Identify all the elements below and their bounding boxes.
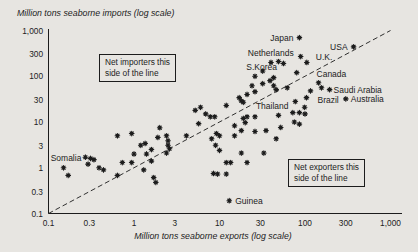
data-point: [129, 131, 134, 136]
data-point: [232, 133, 237, 138]
net-exporters-line1: Net exporters this: [294, 162, 359, 173]
country-point-guinea: [227, 198, 232, 203]
country-point-thailand: [276, 113, 281, 118]
data-point: [245, 92, 250, 97]
data-point: [245, 114, 250, 119]
data-point: [274, 136, 279, 141]
x-tick-label: 100: [298, 218, 312, 228]
data-point: [303, 112, 308, 117]
country-label-thailand: Thailand: [256, 101, 289, 111]
data-point: [260, 81, 265, 86]
data-point: [129, 160, 134, 165]
data-point: [193, 108, 198, 113]
country-point-brazil: [319, 85, 324, 90]
y-tick-label: 3: [38, 141, 43, 151]
data-point: [151, 175, 156, 180]
data-point: [196, 121, 201, 126]
data-point: [156, 135, 161, 140]
data-point: [245, 160, 250, 165]
data-point: [154, 180, 159, 185]
y-tick-label: 0.1: [31, 209, 43, 219]
data-point: [86, 162, 91, 167]
data-point: [239, 151, 244, 156]
data-point: [120, 160, 125, 165]
data-point: [144, 152, 149, 157]
x-tick-label: 1: [132, 218, 137, 228]
data-point: [274, 87, 279, 92]
data-point: [224, 103, 229, 108]
data-point: [297, 122, 302, 127]
country-label-canada: Canada: [317, 69, 347, 79]
country-label-brazil: Brazil: [318, 95, 339, 105]
x-tick-label: 10: [215, 218, 225, 228]
data-point: [115, 133, 120, 138]
data-point: [167, 146, 172, 151]
country-point-somalia: [83, 155, 88, 160]
data-point: [292, 120, 297, 125]
net-importers-note: Net importers this side of the line: [99, 54, 176, 82]
data-point: [212, 114, 217, 119]
data-point: [215, 172, 220, 177]
data-point: [66, 173, 71, 178]
data-point: [184, 133, 189, 138]
net-exporters-note: Net exporters this side of the line: [288, 159, 365, 187]
scatter-plot-canvas: 1,0003001003010310.30.10.10.313103010030…: [0, 0, 418, 252]
data-point: [294, 70, 299, 75]
data-point: [253, 74, 258, 79]
data-point: [253, 114, 258, 119]
data-point: [285, 85, 290, 90]
data-point: [101, 168, 106, 173]
data-point: [166, 138, 171, 143]
country-point-usa: [351, 45, 356, 50]
data-point: [271, 75, 276, 80]
country-label-guinea: Guinea: [235, 196, 263, 206]
data-point: [293, 99, 298, 104]
data-point: [164, 151, 169, 156]
data-point: [253, 129, 258, 134]
data-point: [61, 165, 66, 170]
data-point: [297, 110, 302, 115]
data-point: [278, 125, 283, 130]
data-point: [213, 143, 218, 148]
data-point: [239, 128, 244, 133]
data-point: [198, 105, 203, 110]
data-point: [239, 99, 244, 104]
x-tick-label: 1,000: [380, 218, 401, 228]
data-point: [217, 133, 222, 138]
data-point: [264, 128, 269, 133]
x-tick-label: 30: [256, 218, 266, 228]
country-label-s-korea: S.Korea: [246, 62, 277, 72]
x-tick-label: 300: [339, 218, 353, 228]
data-point: [132, 152, 137, 157]
data-point: [209, 136, 214, 141]
country-point-canada: [316, 80, 321, 85]
data-point: [149, 159, 154, 164]
data-point: [302, 105, 307, 110]
country-label-u-k-: U.K.: [316, 52, 333, 62]
net-importers-line1: Net importers this: [105, 57, 170, 68]
data-point: [291, 110, 296, 115]
scatter-chart-figure: Million tons seaborne imports (log scale…: [0, 0, 418, 252]
data-point: [224, 172, 229, 177]
y-tick-label: 1,000: [22, 26, 43, 36]
country-point-netherlands: [298, 54, 303, 59]
country-point-australia: [343, 97, 348, 102]
data-point: [281, 61, 286, 66]
country-point-japan: [297, 35, 302, 40]
y-tick-label: 10: [34, 117, 44, 127]
y-tick-label: 0.3: [31, 187, 43, 197]
data-point: [232, 123, 237, 128]
data-point: [304, 95, 309, 100]
data-point: [211, 171, 216, 176]
country-label-somalia: Somalia: [51, 153, 82, 163]
x-tick-label: 3: [172, 218, 177, 228]
data-point: [308, 89, 313, 94]
country-point-saudi-arabia: [327, 87, 332, 92]
data-point: [203, 112, 208, 117]
x-tick-label: 0.3: [84, 218, 96, 228]
country-label-australia: Australia: [351, 94, 384, 104]
data-point: [97, 165, 102, 170]
data-point: [217, 148, 222, 153]
y-tick-label: 30: [34, 95, 44, 105]
data-point: [228, 160, 233, 165]
